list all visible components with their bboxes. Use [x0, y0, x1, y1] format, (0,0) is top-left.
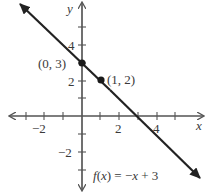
function-label: f(x) = −x + 3 — [93, 168, 158, 183]
graph: y x (0, 3) (1, 2) −2 2 4 4 2 −2 f(x) = −… — [0, 0, 210, 196]
point-1-2-label: (1, 2) — [107, 72, 135, 87]
point-1-2 — [97, 76, 104, 83]
x-tick-label-2: 2 — [115, 121, 122, 136]
y-axis-label: y — [65, 1, 73, 16]
x-tick-label-4: 4 — [153, 121, 160, 136]
x-tick-label-neg2: −2 — [32, 121, 46, 136]
x-axis-label: x — [195, 118, 202, 133]
point-0-3 — [78, 59, 85, 66]
y-tick-label-2: 2 — [68, 74, 75, 89]
function-line — [20, 4, 200, 178]
x-axis — [10, 112, 203, 120]
point-0-3-label: (0, 3) — [38, 56, 66, 71]
y-tick-label-4: 4 — [68, 38, 75, 53]
y-axis — [78, 3, 86, 190]
y-tick-label-neg2: −2 — [58, 145, 72, 160]
